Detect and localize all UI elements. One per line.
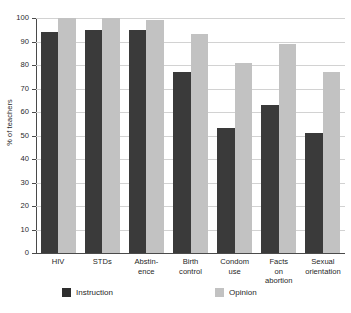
gridline-0: [36, 253, 345, 254]
legend-label-opinion: Opinion: [229, 288, 257, 297]
bar-opinion-4: [235, 63, 253, 253]
y-tick-label-30: 30: [5, 179, 29, 187]
y-tick-label-90: 90: [5, 38, 29, 46]
y-tick-50: 50: [0, 136, 29, 137]
y-tick-20: 20: [0, 206, 29, 207]
bar-instruction-2: [129, 30, 147, 253]
y-axis-title: % of teachers: [5, 83, 14, 163]
bar-instruction-3: [173, 72, 191, 253]
bar-opinion-1: [102, 18, 120, 253]
y-tick-80: 80: [0, 65, 29, 66]
y-tick-70: 70: [0, 89, 29, 90]
y-tick-40: 40: [0, 159, 29, 160]
x-axis-label-6: Sexual orientation: [297, 257, 349, 276]
y-tick-30: 30: [0, 183, 29, 184]
legend-label-instruction: Instruction: [76, 288, 113, 297]
y-tick-100: 100: [0, 18, 29, 19]
bar-instruction-1: [85, 30, 103, 253]
bar-opinion-2: [146, 20, 164, 253]
y-tick-label-100: 100: [5, 14, 29, 22]
bar-instruction-5: [261, 105, 279, 253]
y-tick-label-20: 20: [5, 202, 29, 210]
plot-area: [36, 18, 345, 253]
bar-instruction-0: [41, 32, 59, 253]
bar-opinion-3: [191, 34, 209, 253]
y-tick-label-70: 70: [5, 85, 29, 93]
legend-item-opinion: Opinion: [215, 288, 257, 297]
y-tick-90: 90: [0, 42, 29, 43]
y-tick-label-40: 40: [5, 155, 29, 163]
bar-opinion-5: [279, 44, 297, 253]
y-tick-label-50: 50: [5, 132, 29, 140]
y-tick-60: 60: [0, 112, 29, 113]
bar-instruction-4: [217, 128, 235, 253]
y-tick-label-80: 80: [5, 61, 29, 69]
bar-chart: % of teachers 0102030405060708090100 HIV…: [0, 0, 351, 313]
bar-opinion-6: [323, 72, 341, 253]
legend-swatch-opinion: [215, 288, 224, 297]
bar-instruction-6: [305, 133, 323, 253]
y-tick-label-0: 0: [5, 249, 29, 257]
legend-item-instruction: Instruction: [62, 288, 113, 297]
bar-opinion-0: [58, 18, 76, 253]
y-tick-0: 0: [0, 253, 29, 254]
legend-swatch-instruction: [62, 288, 71, 297]
y-tick-label-60: 60: [5, 108, 29, 116]
chart-legend: InstructionOpinion: [0, 288, 351, 306]
y-tick-10: 10: [0, 230, 29, 231]
y-tick-label-10: 10: [5, 226, 29, 234]
gridline-100: [36, 18, 345, 19]
